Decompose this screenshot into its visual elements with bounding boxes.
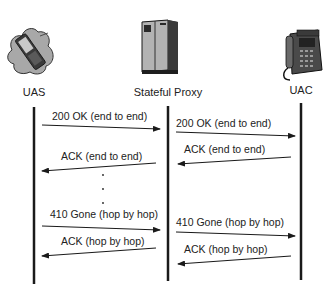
- message-ack-hop-uac-to-proxy: ACK (hop by hop): [178, 243, 291, 264]
- svg-text:410 Gone (hop by hop): 410 Gone (hop by hop): [176, 216, 284, 228]
- svg-text:ACK (end to end): ACK (end to end): [61, 150, 142, 162]
- svg-text:200 OK (end to end): 200 OK (end to end): [176, 117, 271, 129]
- sequence-diagram: UAS Stateful Proxy UAC 200 OK (end to en…: [0, 0, 332, 297]
- participant-label-uas: UAS: [23, 86, 46, 98]
- server-icon: [142, 20, 178, 74]
- svg-text:ACK (end to end): ACK (end to end): [184, 143, 265, 155]
- svg-text:410 Gone (hop by hop): 410 Gone (hop by hop): [50, 208, 158, 220]
- ellipsis-dots: [102, 174, 104, 204]
- participant-label-proxy: Stateful Proxy: [134, 86, 203, 98]
- participant-label-uac: UAC: [289, 84, 312, 96]
- svg-text:ACK (hop by hop): ACK (hop by hop): [61, 235, 144, 247]
- message-200ok-proxy-to-uac: 200 OK (end to end): [176, 117, 295, 136]
- mobile-phone-icon: [8, 29, 53, 74]
- svg-text:200 OK (end to end): 200 OK (end to end): [52, 110, 147, 122]
- message-410gone-uas-to-proxy: 410 Gone (hop by hop): [42, 208, 160, 230]
- message-200ok-uas-to-proxy: 200 OK (end to end): [42, 110, 160, 129]
- message-ack-proxy-to-uas: ACK (end to end): [42, 150, 156, 171]
- message-410gone-proxy-to-uac: 410 Gone (hop by hop): [176, 216, 295, 236]
- desk-phone-icon: [284, 30, 322, 80]
- message-ack-uac-to-proxy: ACK (end to end): [178, 143, 291, 164]
- message-ack-hop-proxy-to-uas: ACK (hop by hop): [42, 235, 156, 256]
- svg-text:ACK (hop by hop): ACK (hop by hop): [184, 243, 267, 255]
